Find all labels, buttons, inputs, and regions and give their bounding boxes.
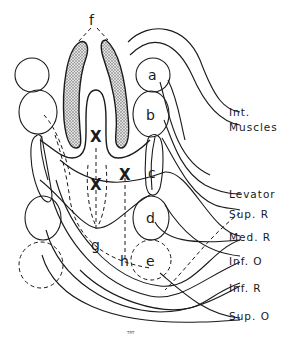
- label-muscles: Muscles: [229, 121, 278, 133]
- label-inf-o: Inf. O: [229, 255, 263, 267]
- label-levator: Levator: [229, 188, 276, 200]
- label-sup-r: Sup. R: [229, 208, 269, 220]
- letter-d: d: [146, 210, 155, 226]
- elongate-c-inner: [151, 137, 155, 190]
- label-inf-r: Inf. R: [229, 282, 262, 294]
- left-circle-3: [25, 196, 61, 240]
- label-sup-o: Sup. O: [229, 310, 270, 322]
- label-int: Int.: [229, 106, 250, 118]
- letter-h: h: [120, 253, 129, 269]
- left-elongate-1: [31, 135, 52, 202]
- artist-signature: TRT: [126, 330, 135, 335]
- int-muscles-curve-a: [168, 80, 185, 140]
- letter-f: f: [89, 12, 95, 28]
- inf-r-line: [80, 270, 240, 310]
- letter-e: e: [146, 253, 155, 269]
- letter-c: c: [148, 165, 156, 181]
- muscle-diagram: f a b c d e g h X X X Int. Muscles Levat…: [0, 0, 293, 347]
- sweep-4: [42, 255, 240, 322]
- sup-r-dashed: [165, 213, 240, 290]
- letter-g: g: [91, 237, 100, 253]
- x-marker-upper: X: [90, 128, 102, 146]
- letter-a: a: [148, 67, 157, 83]
- left-circle-1: [15, 58, 49, 92]
- int-muscles-curve-outer: [128, 29, 240, 112]
- dashed-g-left: [87, 165, 96, 226]
- letter-b: b: [146, 107, 155, 123]
- left-shaded-lobe: [64, 42, 88, 148]
- left-circle-2: [19, 90, 57, 134]
- central-u-outline: [40, 90, 150, 158]
- dashed-left-2: [55, 135, 150, 268]
- label-med-r: Med. R: [229, 231, 271, 243]
- x-marker-right: X: [119, 166, 131, 184]
- x-marker-lower: X: [90, 176, 102, 194]
- dashed-g-right: [98, 165, 107, 226]
